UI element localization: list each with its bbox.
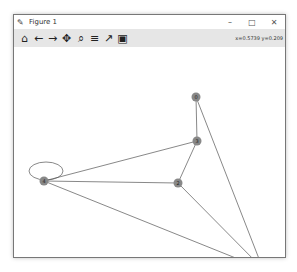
configure-subplots-icon[interactable]: ≡ <box>88 31 101 45</box>
toolbar: ⌂ ← → ✥ ⌕ ≡ ↗ ▣ x=0.5739 y=0.209 <box>14 29 285 47</box>
graph-edge <box>196 97 197 141</box>
zoom-icon[interactable]: ⌕ <box>74 31 87 45</box>
home-icon[interactable]: ⌂ <box>18 31 31 45</box>
maximize-button[interactable]: □ <box>241 18 263 27</box>
pan-icon[interactable]: ✥ <box>60 31 73 45</box>
forward-icon[interactable]: → <box>46 31 59 45</box>
node-label: 0 <box>194 94 197 100</box>
node-label: 4 <box>42 178 45 184</box>
save-icon[interactable]: ▣ <box>116 31 129 45</box>
title-bar: ✎ Figure 1 – □ ✕ <box>14 15 285 29</box>
node-label: 2 <box>176 180 179 186</box>
graph-edge <box>196 97 263 257</box>
graph-edge <box>178 183 263 257</box>
node-label: 3 <box>195 138 198 144</box>
graph-edge <box>44 181 178 183</box>
app-icon: ✎ <box>17 18 27 27</box>
plot-canvas[interactable]: 01234 <box>14 47 285 257</box>
close-button[interactable]: ✕ <box>263 18 285 27</box>
cursor-coordinates: x=0.5739 y=0.209 <box>235 35 285 41</box>
window-title: Figure 1 <box>29 18 57 26</box>
graph-edge <box>178 141 197 183</box>
graph-edge <box>44 181 263 257</box>
graph-edge <box>44 141 197 181</box>
network-graph: 01234 <box>14 47 285 257</box>
minimize-button[interactable]: – <box>219 18 241 27</box>
back-icon[interactable]: ← <box>32 31 45 45</box>
figure-window: ✎ Figure 1 – □ ✕ ⌂ ← → ✥ ⌕ ≡ ↗ ▣ x=0.573… <box>13 14 286 258</box>
edit-axis-icon[interactable]: ↗ <box>102 31 115 45</box>
